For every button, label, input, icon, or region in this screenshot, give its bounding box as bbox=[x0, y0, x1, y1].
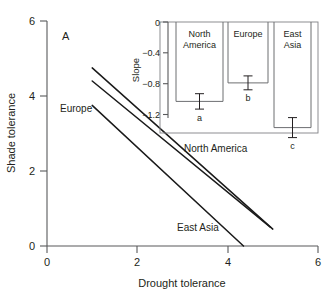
figure-panel-a: 0 2 4 6 0 2 4 6 Drought tolerance Shade … bbox=[0, 0, 334, 296]
inset-bar-label-eu: Europe bbox=[233, 29, 262, 39]
y-tick-label-6: 6 bbox=[29, 15, 35, 27]
inset-letter-b: b bbox=[245, 93, 250, 103]
inset-y-label-0: 0 bbox=[155, 18, 160, 28]
inset-y-label-neg12: −1.2 bbox=[142, 110, 160, 120]
inset-y-axis-label: Slope bbox=[130, 58, 141, 82]
y-axis-label: Shade tolerance bbox=[5, 93, 17, 173]
regression-line-north-america bbox=[92, 81, 270, 227]
y-tick-label-2: 2 bbox=[29, 165, 35, 177]
series-label-europe: Europe bbox=[60, 103, 93, 114]
x-tick-label-2: 2 bbox=[134, 256, 140, 268]
panel-label-a: A bbox=[62, 30, 70, 42]
regression-line-east-asia bbox=[92, 105, 243, 246]
inset-letter-c: c bbox=[290, 141, 295, 151]
x-tick-label-0: 0 bbox=[44, 256, 50, 268]
inset-bar-label-na-line1: North bbox=[188, 29, 210, 39]
inset-chart: 0 −0.4 −0.8 −1.2 Slope North America a E… bbox=[130, 18, 318, 152]
y-tick-label-4: 4 bbox=[29, 90, 35, 102]
inset-bar-label-ea-line1: East bbox=[283, 29, 302, 39]
inset-letter-a: a bbox=[197, 113, 202, 123]
x-tick-label-4: 4 bbox=[225, 256, 231, 268]
inset-bar-label-na-line2: America bbox=[183, 40, 216, 50]
series-label-north-america: North America bbox=[184, 143, 248, 154]
inset-bar-label-ea-line2: Asia bbox=[284, 40, 302, 50]
figure-svg: 0 2 4 6 0 2 4 6 Drought tolerance Shade … bbox=[0, 0, 334, 296]
x-tick-label-6: 6 bbox=[315, 256, 321, 268]
series-label-east-asia: East Asia bbox=[177, 222, 219, 233]
main-axes bbox=[40, 21, 318, 253]
y-tick-label-0: 0 bbox=[29, 240, 35, 252]
inset-y-label-neg04: −0.4 bbox=[142, 48, 160, 58]
x-axis-label: Drought tolerance bbox=[138, 277, 225, 289]
inset-y-label-neg08: −0.8 bbox=[142, 79, 160, 89]
